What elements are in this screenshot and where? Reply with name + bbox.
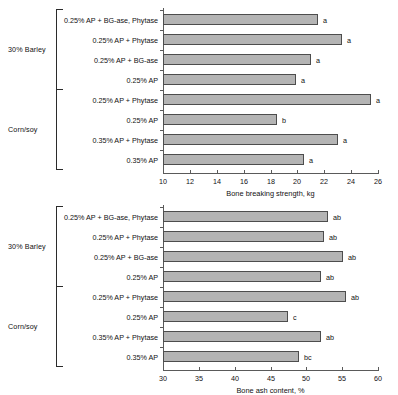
bar[interactable] [163,14,318,25]
bar[interactable] [163,114,277,125]
x-axis-tick-label: 55 [330,374,354,383]
significance-letter: ab [351,293,359,302]
x-axis-tick [199,367,200,370]
y-axis-tick [160,307,163,308]
x-axis-title: Bone ash content, % [163,386,378,395]
x-axis-tick-label: 60 [366,374,390,383]
bar[interactable] [163,54,311,65]
group-label: 30% Barley [8,45,46,54]
bar[interactable] [163,311,288,322]
x-axis-tick [217,170,218,173]
significance-letter: bc [304,353,312,362]
y-axis-tick [160,347,163,348]
group-bracket [56,9,63,90]
x-axis-tick-label: 24 [339,177,363,186]
x-axis-tick [351,170,352,173]
significance-letter: a [343,136,347,145]
significance-letter: ab [326,333,334,342]
group-label: 30% Barley [8,242,46,251]
x-axis-tick [163,170,164,173]
x-axis-tick-label: 14 [205,177,229,186]
chart-panel-bone-breaking-strength: 101214161820222426Bone breaking strength… [0,0,398,197]
bar[interactable] [163,134,338,145]
x-axis-tick [235,367,236,370]
x-axis-tick-label: 45 [259,374,283,383]
y-axis-tick [160,90,163,91]
significance-letter: a [323,16,327,25]
x-axis-tick-label: 40 [223,374,247,383]
x-axis-tick [244,170,245,173]
y-axis-tick [160,70,163,71]
group-bracket [56,89,63,170]
x-axis-tick [378,367,379,370]
significance-letter: ab [348,253,356,262]
chart-panel-bone-ash-content: 30354045505560Bone ash content, %0.25% A… [0,197,398,395]
y-axis-tick [160,287,163,288]
x-axis-tick-label: 35 [187,374,211,383]
x-axis-tick-label: 50 [294,374,318,383]
significance-letter: b [282,116,286,125]
bar[interactable] [163,94,371,105]
y-axis-tick [160,247,163,248]
x-axis-tick-label: 20 [285,177,309,186]
bar[interactable] [163,74,296,85]
x-axis-tick-label: 26 [366,177,390,186]
x-axis-tick [163,367,164,370]
y-axis-tick [160,150,163,151]
x-axis-tick [378,170,379,173]
figure-root: 101214161820222426Bone breaking strength… [0,0,398,395]
y-axis-tick [160,50,163,51]
x-axis-tick [297,170,298,173]
x-axis-tick [306,367,307,370]
bar[interactable] [163,211,328,222]
bar[interactable] [163,154,304,165]
bar[interactable] [163,351,299,362]
group-label: Corn/soy [8,322,38,331]
x-axis-tick [324,170,325,173]
y-axis-tick [160,267,163,268]
group-label: Corn/soy [8,125,38,134]
significance-letter: a [316,56,320,65]
y-axis-tick [160,30,163,31]
significance-letter: ab [333,213,341,222]
bar[interactable] [163,251,343,262]
x-axis-tick-label: 12 [178,177,202,186]
x-axis-tick [271,367,272,370]
significance-letter: a [309,156,313,165]
bar[interactable] [163,34,342,45]
bar[interactable] [163,231,324,242]
group-bracket [56,286,63,367]
value-axis-line [163,8,164,173]
x-axis-tick [342,367,343,370]
significance-letter: a [347,36,351,45]
significance-letter: a [301,76,305,85]
x-axis-tick-label: 16 [232,177,256,186]
bar[interactable] [163,331,321,342]
category-axis-line [163,173,379,174]
y-axis-tick [160,110,163,111]
y-axis-tick [160,207,163,208]
group-bracket [56,206,63,287]
bar[interactable] [163,271,321,282]
value-axis-line [163,205,164,370]
significance-letter: a [376,96,380,105]
x-axis-tick [190,170,191,173]
bar[interactable] [163,291,346,302]
y-axis-tick [160,10,163,11]
y-axis-tick [160,327,163,328]
significance-letter: ab [329,233,337,242]
x-axis-tick-label: 18 [259,177,283,186]
y-axis-tick [160,130,163,131]
x-axis-tick [271,170,272,173]
x-axis-tick-label: 22 [312,177,336,186]
category-axis-line [163,370,379,371]
y-axis-tick [160,227,163,228]
significance-letter: c [293,313,297,322]
significance-letter: ab [326,273,334,282]
